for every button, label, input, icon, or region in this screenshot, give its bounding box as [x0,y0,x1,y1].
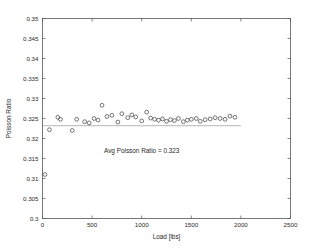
y-tick-label: 0.31 [26,175,39,182]
x-tick-label: 2000 [234,221,248,228]
x-axis-title: Load [lbs] [153,233,181,241]
chart-figure: 05001000150020002500 0.30.3050.310.3150.… [0,0,310,252]
y-tick-label: 0.3 [30,215,39,222]
poisson-ratio-scatter-chart: 05001000150020002500 0.30.3050.310.3150.… [0,0,310,252]
chart-annotations: Avg Poisson Ratio = 0.323 [104,147,180,155]
x-tick-label: 1500 [184,221,198,228]
y-tick-label: 0.32 [26,135,39,142]
x-tick-label: 2500 [284,221,298,228]
y-tick-label: 0.325 [23,115,39,122]
y-tick-label: 0.305 [23,195,39,202]
y-tick-label: 0.315 [23,155,39,162]
y-tick-label: 0.35 [26,15,39,22]
y-tick-label: 0.335 [23,75,39,82]
y-tick-label: 0.34 [26,55,39,62]
x-tick-label: 500 [87,221,98,228]
x-tick-label: 0 [41,221,45,228]
y-tick-label: 0.345 [23,35,39,42]
avg-poisson-ratio-annotation: Avg Poisson Ratio = 0.323 [104,147,180,155]
y-tick-label: 0.33 [26,95,39,102]
x-tick-label: 1000 [135,221,149,228]
y-axis-title: Poisson Ratio [5,98,12,138]
